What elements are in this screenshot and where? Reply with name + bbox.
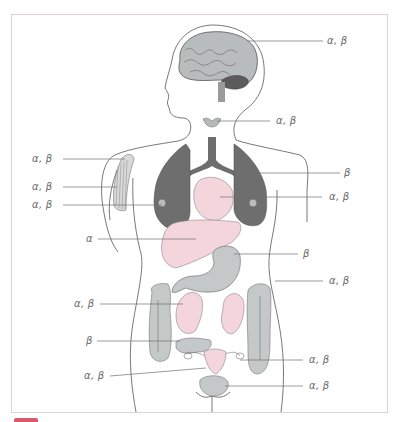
brain [179, 32, 258, 102]
trachea [188, 137, 236, 176]
kidney-right [221, 294, 244, 334]
label-intestine: β [86, 336, 93, 346]
label-thyroid: α, β [276, 116, 297, 126]
colon-ascending [149, 283, 171, 361]
label-kidney: α, β [74, 299, 95, 309]
thyroid [203, 118, 221, 127]
label-arm-muscle: α, β [32, 182, 53, 192]
bladder [200, 376, 229, 396]
accent-mark [14, 418, 38, 422]
label-skin-vessels: α, β [329, 276, 350, 286]
label-lung-vessel: α, β [32, 200, 53, 210]
heart [194, 177, 233, 220]
label-uterus: α, β [84, 371, 105, 381]
kidney-left [176, 293, 203, 334]
label-arm-skin: α, β [32, 154, 53, 164]
label-lung: β [344, 168, 351, 178]
lung-right [234, 144, 267, 226]
label-liver: α [86, 234, 93, 244]
label-stomach: β [303, 249, 310, 259]
label-ovary-tube: α, β [309, 355, 330, 365]
lung-vessel-left [158, 199, 166, 207]
lung-left [154, 144, 190, 229]
colon-descending [247, 284, 271, 374]
label-heart: α, β [329, 192, 350, 202]
label-brain: α, β [327, 36, 348, 46]
arm-muscle [113, 154, 134, 210]
label-bladder: α, β [309, 381, 330, 391]
lung-vessel-right [249, 199, 257, 207]
uterus [204, 349, 226, 374]
